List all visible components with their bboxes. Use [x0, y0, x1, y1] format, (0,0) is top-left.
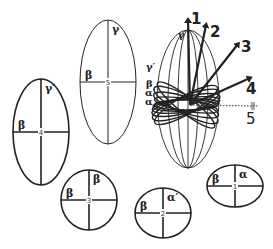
ellipse-group: 5γβ4γ′β3ββ2α′β1αβ: [13, 20, 263, 238]
composite-ellipse-cluster: γ′βα′αγ12345: [145, 10, 258, 168]
axis-label-top: γ: [112, 23, 120, 36]
composite-axis-label: γ′: [146, 61, 156, 72]
axis-label-left: β: [140, 200, 147, 213]
ellipse-number: 2: [161, 210, 165, 218]
ellipsoid-rotation-diagram: 5γβ4γ′β3ββ2α′β1αβ γ′βα′αγ12345: [0, 0, 273, 249]
axis-label-left: β: [85, 69, 92, 82]
axis-label-left: β: [66, 187, 73, 200]
axis-label-top: α′: [167, 191, 178, 204]
ellipse-1: 1αβ: [207, 165, 263, 207]
axis-label-left: β: [212, 173, 219, 186]
arrow-label: 3: [241, 38, 251, 56]
axis-label-top: β: [93, 173, 100, 186]
arrow-label: 5: [246, 110, 256, 128]
arrow-3: 3: [190, 38, 251, 105]
ellipse-5: 5γβ: [80, 20, 136, 144]
ellipse-2: 2α′β: [135, 188, 191, 238]
ellipse-number: 4: [39, 129, 44, 137]
ellipse-number: 3: [87, 197, 91, 205]
ellipse-4: 4γ′β: [13, 79, 69, 185]
arrow-label: 2: [210, 23, 220, 41]
arrow-label: 1: [191, 10, 201, 28]
axis-label-left: β: [18, 119, 25, 132]
ellipse-number: 1: [233, 183, 237, 191]
ellipse-3: 3ββ: [61, 170, 117, 230]
axis-label-top: γ′: [45, 82, 55, 95]
composite-axis-label: γ: [178, 29, 185, 40]
composite-axis-label: α: [145, 96, 153, 107]
axis-label-top: α: [239, 168, 248, 181]
arrow-label: 4: [246, 80, 256, 98]
ellipse-number: 5: [106, 79, 110, 87]
